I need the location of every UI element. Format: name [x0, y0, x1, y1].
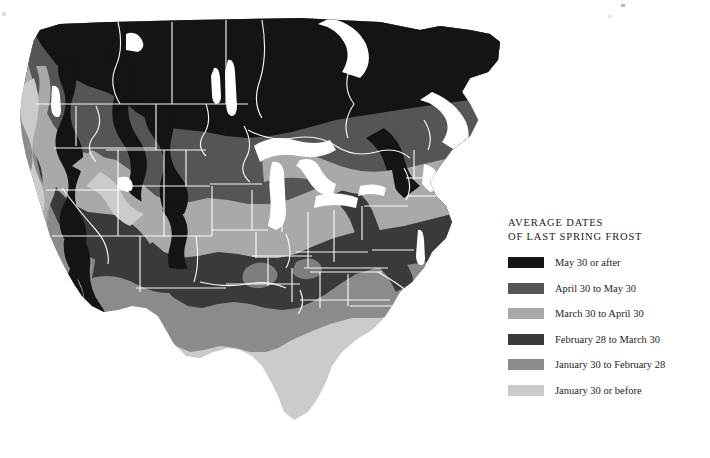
legend-swatch-january-30-or-before [508, 385, 544, 396]
legend-title-line1: AVERAGE DATES [508, 216, 706, 230]
legend-label-march-30-to-april-30: March 30 to April 30 [555, 308, 644, 319]
legend-item-february-28-to-march-30: February 28 to March 30 [508, 334, 706, 345]
legend-title-line2: OF LAST SPRING FROST [508, 230, 706, 244]
legend-item-may-30-or-after: May 30 or after [508, 257, 706, 268]
legend-swatch-january-30-to-february-28 [508, 359, 544, 370]
north-america-frost-map [0, 0, 505, 458]
legend-item-march-30-to-april-30: March 30 to April 30 [508, 308, 706, 319]
legend-label-january-30-or-before: January 30 or before [555, 385, 642, 396]
legend-swatch-march-30-to-april-30 [508, 308, 544, 319]
legend-swatch-april-30-to-may-30 [508, 283, 544, 294]
legend-label-april-30-to-may-30: April 30 to May 30 [555, 283, 636, 294]
legend-item-january-30-or-before: January 30 or before [508, 385, 706, 396]
legend-item-april-30-to-may-30: April 30 to May 30 [508, 283, 706, 294]
scan-artifact-speck [2, 12, 6, 16]
lake-michigan [268, 162, 286, 230]
map-canvas [0, 0, 505, 458]
legend-item-january-30-to-february-28: January 30 to February 28 [508, 359, 706, 370]
legend-label-may-30-or-after: May 30 or after [555, 257, 621, 268]
legend-swatch-february-28-to-march-30 [508, 334, 544, 345]
legend-swatch-may-30-or-after [508, 257, 544, 268]
legend-label-february-28-to-march-30: February 28 to March 30 [555, 334, 660, 345]
legend-title: AVERAGE DATES OF LAST SPRING FROST [508, 216, 706, 243]
map-legend: AVERAGE DATES OF LAST SPRING FROST May 3… [508, 216, 706, 411]
scan-artifact-speck [608, 15, 612, 18]
frost-date-map-figure: AVERAGE DATES OF LAST SPRING FROST May 3… [0, 0, 710, 458]
legend-label-january-30-to-february-28: January 30 to February 28 [555, 359, 665, 370]
scan-artifact-speck [621, 4, 625, 7]
map-zone-layers [0, 0, 505, 458]
